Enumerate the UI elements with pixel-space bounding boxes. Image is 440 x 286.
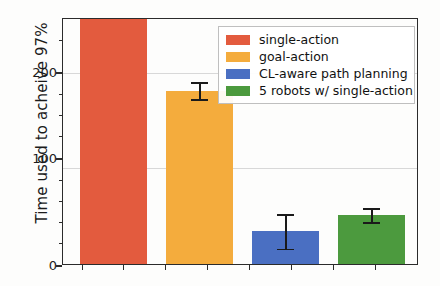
legend-label: CL-aware path planning bbox=[259, 67, 408, 80]
y-tick-label-0: 0 bbox=[17, 258, 57, 273]
legend-label: single-action bbox=[259, 33, 339, 46]
chart-legend: single-action goal-action CL-aware path … bbox=[218, 26, 415, 104]
x-tick-minor bbox=[291, 265, 292, 270]
y-tick-label-100: 100 bbox=[17, 151, 57, 166]
legend-swatch-icon bbox=[226, 69, 250, 79]
error-bar-goal-action-cap-upper bbox=[191, 82, 208, 84]
y-axis-label: Time used to acheive 97% bbox=[33, 3, 51, 243]
bar-chart-figure: Time used to acheive 97% 200 100 0 bbox=[0, 0, 440, 286]
error-bar-5-robots-line bbox=[371, 208, 373, 221]
legend-swatch-icon bbox=[226, 52, 250, 62]
x-tick-minor bbox=[375, 265, 376, 270]
bar-single-action bbox=[80, 19, 147, 264]
legend-swatch-icon bbox=[226, 86, 250, 96]
y-tick-label-200: 200 bbox=[17, 65, 57, 80]
x-tick-minor bbox=[165, 265, 166, 270]
x-tick-minor bbox=[207, 265, 208, 270]
legend-swatch-icon bbox=[226, 35, 250, 45]
legend-item-5-robots-single-action: 5 robots w/ single-action bbox=[226, 83, 407, 98]
error-bar-cl-aware-line bbox=[285, 214, 287, 248]
legend-label: 5 robots w/ single-action bbox=[259, 84, 413, 97]
error-bar-goal-action-cap-lower bbox=[191, 99, 208, 101]
legend-item-single-action: single-action bbox=[226, 32, 407, 47]
error-bar-cl-aware-cap-lower bbox=[277, 249, 294, 251]
error-bar-goal-action-line bbox=[199, 82, 201, 99]
legend-item-cl-aware-path-planning: CL-aware path planning bbox=[226, 66, 407, 81]
error-bar-5-robots-cap-lower bbox=[363, 222, 380, 224]
error-bar-5-robots-cap-upper bbox=[363, 208, 380, 210]
x-tick-minor bbox=[333, 265, 334, 270]
legend-label: goal-action bbox=[259, 50, 329, 63]
legend-item-goal-action: goal-action bbox=[226, 49, 407, 64]
bar-goal-action bbox=[166, 91, 233, 264]
x-tick-minor bbox=[123, 265, 124, 270]
error-bar-cl-aware-cap-upper bbox=[277, 214, 294, 216]
x-tick-minor bbox=[249, 265, 250, 270]
x-tick-minor bbox=[82, 265, 83, 270]
y-tick-major-0 bbox=[56, 265, 62, 267]
